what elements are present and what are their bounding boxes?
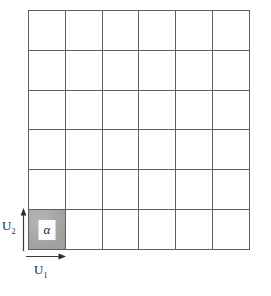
alpha-label-box: α bbox=[38, 220, 55, 240]
grid-cell bbox=[29, 51, 66, 91]
grid-cell bbox=[103, 11, 140, 51]
shaded-unit-cell: α bbox=[29, 210, 66, 250]
grid-cell bbox=[66, 130, 103, 170]
grid-cell bbox=[139, 170, 176, 210]
lattice-grid: α bbox=[28, 10, 250, 250]
grid-cell bbox=[103, 210, 140, 250]
grid-cell bbox=[139, 11, 176, 51]
grid-cell bbox=[176, 11, 213, 51]
grid-cell bbox=[66, 51, 103, 91]
arrow-up-icon bbox=[19, 208, 28, 252]
grid-cell bbox=[213, 91, 250, 131]
grid-cell bbox=[103, 91, 140, 131]
grid-cell bbox=[139, 210, 176, 250]
grid-cell bbox=[213, 210, 250, 250]
grid-cell bbox=[29, 130, 66, 170]
grid-cell bbox=[213, 170, 250, 210]
grid-cell bbox=[176, 91, 213, 131]
grid-cell bbox=[66, 91, 103, 131]
grid-cell bbox=[213, 11, 250, 51]
grid-cell bbox=[29, 11, 66, 51]
grid-cell bbox=[103, 130, 140, 170]
grid-cell bbox=[139, 51, 176, 91]
lattice-figure: α U2 U1 bbox=[0, 0, 271, 296]
grid-cell bbox=[139, 91, 176, 131]
horizontal-axis-label: U1 bbox=[34, 263, 47, 280]
grid-cell bbox=[66, 11, 103, 51]
grid-cell bbox=[139, 130, 176, 170]
grid-cell bbox=[29, 91, 66, 131]
grid-cell bbox=[66, 210, 103, 250]
grid-cell bbox=[213, 51, 250, 91]
arrow-right-icon bbox=[26, 252, 66, 261]
grid-cell bbox=[176, 210, 213, 250]
horizontal-axis-arrow bbox=[26, 252, 66, 261]
grid-cell bbox=[213, 130, 250, 170]
vertical-axis-label: U2 bbox=[2, 219, 15, 236]
grid-cell bbox=[176, 170, 213, 210]
vertical-axis-label-subscript: 2 bbox=[11, 227, 15, 236]
alpha-symbol: α bbox=[43, 223, 50, 236]
vertical-axis-arrow bbox=[19, 208, 28, 252]
horizontal-axis-label-base: U bbox=[34, 262, 43, 277]
grid-cell bbox=[103, 170, 140, 210]
vertical-axis-label-base: U bbox=[2, 218, 11, 233]
horizontal-axis-label-subscript: 1 bbox=[43, 271, 47, 280]
grid-cell bbox=[103, 51, 140, 91]
grid-cell bbox=[176, 130, 213, 170]
grid-cell bbox=[29, 170, 66, 210]
grid-cell bbox=[66, 170, 103, 210]
grid-cell bbox=[176, 51, 213, 91]
